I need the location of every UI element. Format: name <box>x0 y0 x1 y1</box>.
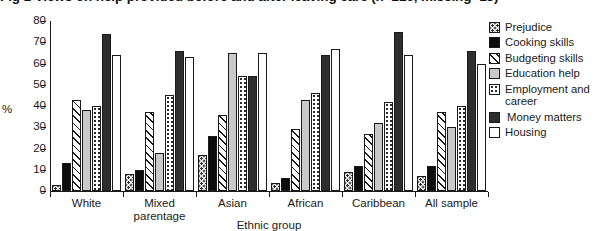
bar <box>354 166 363 192</box>
legend-item-money-matters[interactable]: Money matters <box>489 111 609 123</box>
legend-item-label: Employment and career <box>505 83 609 108</box>
legend-item-budgeting-skills[interactable]: Budgeting skills <box>489 52 609 64</box>
bar <box>404 55 413 191</box>
y-tick-label: 60 <box>6 58 46 70</box>
employment-and-career-swatch-icon <box>489 84 500 95</box>
legend-item-prejudice[interactable]: Prejudice <box>489 21 609 33</box>
bar-group-bars <box>50 21 123 191</box>
y-tick-mark <box>41 42 46 43</box>
bar <box>384 102 393 191</box>
bar <box>477 64 486 192</box>
bar <box>364 134 373 191</box>
bar <box>281 178 290 191</box>
bar <box>62 163 71 191</box>
y-tick-label: 70 <box>6 36 46 48</box>
bar <box>112 55 121 191</box>
bar <box>248 76 257 191</box>
bar <box>301 100 310 191</box>
bar-group-bars <box>415 21 488 191</box>
y-tick-label: 30 <box>6 121 46 133</box>
x-tick-mark <box>488 192 489 197</box>
cooking-skills-swatch-icon <box>489 37 500 48</box>
bar <box>125 174 134 191</box>
y-tick-mark <box>41 149 46 150</box>
bar-group-bars <box>342 21 415 191</box>
bar <box>331 49 340 191</box>
bar <box>198 155 207 191</box>
bar-group <box>50 21 123 191</box>
legend: PrejudiceCooking skillsBudgeting skillsE… <box>489 21 609 142</box>
bar-group <box>269 21 342 191</box>
y-tick-mark <box>41 170 46 171</box>
legend-item-employment-and-career[interactable]: Employment and career <box>489 83 609 108</box>
bar <box>321 55 330 191</box>
bar <box>394 32 403 191</box>
bar <box>72 100 81 191</box>
legend-item-label: Budgeting skills <box>505 52 584 64</box>
bar <box>228 53 237 191</box>
y-tick-mark <box>41 106 46 107</box>
legend-item-label: Prejudice <box>505 21 552 33</box>
bar <box>427 166 436 192</box>
bar <box>175 51 184 191</box>
bar <box>447 127 456 191</box>
bar <box>218 115 227 192</box>
bar <box>165 95 174 191</box>
y-tick-label: 40 <box>6 100 46 112</box>
y-tick-label: 0 <box>6 185 46 197</box>
bar-group <box>123 21 196 191</box>
bar-group-bars <box>196 21 269 191</box>
legend-item-label: Money matters <box>507 111 582 123</box>
bar <box>238 76 247 191</box>
bar <box>82 110 91 191</box>
housing-swatch-icon <box>489 127 500 138</box>
money-matters-swatch-icon <box>489 112 500 123</box>
y-tick-mark <box>41 85 46 86</box>
legend-item-housing[interactable]: Housing <box>489 126 609 138</box>
bar <box>145 112 154 191</box>
legend-item-label: Housing <box>505 126 546 138</box>
y-tick-label: 50 <box>6 79 46 91</box>
bar-group <box>196 21 269 191</box>
y-tick-mark <box>41 127 46 128</box>
bar <box>417 176 426 191</box>
x-axis-label: Ethnic group <box>50 219 488 231</box>
bar <box>291 129 300 191</box>
bar-group-bars <box>269 21 342 191</box>
bar <box>467 51 476 191</box>
bar-group-bars <box>123 21 196 191</box>
bar-groups <box>50 21 488 191</box>
y-tick-label: 10 <box>6 164 46 176</box>
y-tick-mark <box>41 191 46 192</box>
figure-container: Fig 1 Views on help provided before and … <box>0 0 609 231</box>
figure-title-clipped: Fig 1 Views on help provided before and … <box>0 0 609 7</box>
bar <box>52 185 61 191</box>
bar-group <box>415 21 488 191</box>
bar <box>374 123 383 191</box>
y-tick-label: 80 <box>6 15 46 27</box>
y-tick-label: 20 <box>6 143 46 155</box>
bar <box>208 136 217 191</box>
bar <box>271 183 280 192</box>
bar <box>311 93 320 191</box>
bar <box>185 57 194 191</box>
legend-item-cooking-skills[interactable]: Cooking skills <box>489 36 609 48</box>
y-tick-mark <box>41 21 46 22</box>
y-axis-tick-labels: 80706050403020100 <box>0 21 46 192</box>
budgeting-skills-swatch-icon <box>489 53 500 64</box>
education-help-swatch-icon <box>489 68 500 79</box>
legend-item-label: Cooking skills <box>505 36 574 48</box>
legend-item-education-help[interactable]: Education help <box>489 67 609 79</box>
legend-item-label: Education help <box>505 67 580 79</box>
bar <box>437 112 446 191</box>
figure-title-text: Fig 1 Views on help provided before and … <box>0 0 498 4</box>
bar <box>457 106 466 191</box>
bar <box>102 34 111 191</box>
y-tick-mark <box>41 64 46 65</box>
bar <box>155 153 164 191</box>
bar <box>344 172 353 191</box>
bar-group <box>342 21 415 191</box>
bar <box>258 53 267 191</box>
prejudice-swatch-icon <box>489 22 500 33</box>
bar <box>135 170 144 191</box>
